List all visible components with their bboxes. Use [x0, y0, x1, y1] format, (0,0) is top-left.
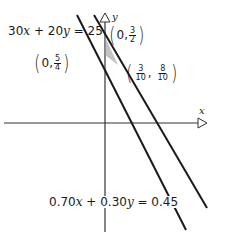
equation-2-label: 0.70x + 0.30y = 0.45	[48, 196, 179, 208]
point-0-3-2: (0, 32)	[108, 24, 146, 46]
y-axis-arrow-icon	[100, 13, 110, 22]
point-intersection: ( 310, 810)	[125, 62, 178, 84]
point-0-5-4: (0, 54)	[33, 52, 71, 74]
equation-1-label: 30x + 20y = 25	[8, 25, 103, 37]
x-axis-arrow-icon	[198, 118, 207, 128]
y-axis-label: y	[112, 12, 118, 22]
x-axis-label: x	[199, 106, 205, 116]
